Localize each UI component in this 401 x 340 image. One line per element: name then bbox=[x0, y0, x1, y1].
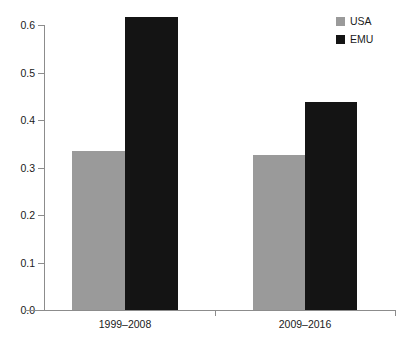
y-axis-tick bbox=[38, 120, 44, 121]
legend-item-emu: EMU bbox=[336, 32, 373, 47]
legend-swatch-icon bbox=[336, 35, 345, 44]
legend: USA EMU bbox=[336, 14, 373, 50]
x-axis-tick bbox=[395, 310, 396, 316]
y-axis-tick-label: 0.3 bbox=[1, 163, 35, 174]
bar-usa-1999-2008 bbox=[72, 151, 125, 310]
y-axis-tick-label: 0.6 bbox=[1, 20, 35, 31]
bar-emu-1999-2008 bbox=[125, 17, 178, 310]
x-axis-tick bbox=[215, 310, 216, 316]
y-axis-tick bbox=[38, 263, 44, 264]
y-axis-tick-label: 0.4 bbox=[1, 115, 35, 126]
y-axis-tick-label: 0.1 bbox=[1, 258, 35, 269]
legend-swatch-icon bbox=[336, 17, 345, 26]
legend-label-emu: EMU bbox=[350, 34, 373, 45]
y-axis-tick-label: 0.5 bbox=[1, 68, 35, 79]
y-axis-tick-label: 0.2 bbox=[1, 210, 35, 221]
legend-item-usa: USA bbox=[336, 14, 373, 29]
bar-chart: 0.0 0.1 0.2 0.3 0.4 0.5 0.6 1999–2008 20… bbox=[0, 0, 401, 340]
bar-usa-2009-2016 bbox=[253, 155, 305, 310]
plot-area: 0.0 0.1 0.2 0.3 0.4 0.5 0.6 1999–2008 20… bbox=[0, 0, 401, 340]
y-axis-line bbox=[44, 25, 45, 310]
bar-emu-2009-2016 bbox=[305, 102, 357, 310]
x-axis-line bbox=[215, 310, 396, 311]
y-axis-tick bbox=[38, 168, 44, 169]
x-axis-group-label-2: 2009–2016 bbox=[255, 318, 355, 330]
y-axis-tick bbox=[38, 25, 44, 26]
y-axis-tick bbox=[38, 215, 44, 216]
x-axis-group-label-1: 1999–2008 bbox=[75, 318, 175, 330]
legend-label-usa: USA bbox=[350, 16, 372, 27]
y-axis-tick bbox=[38, 73, 44, 74]
x-axis-line bbox=[25, 310, 216, 311]
